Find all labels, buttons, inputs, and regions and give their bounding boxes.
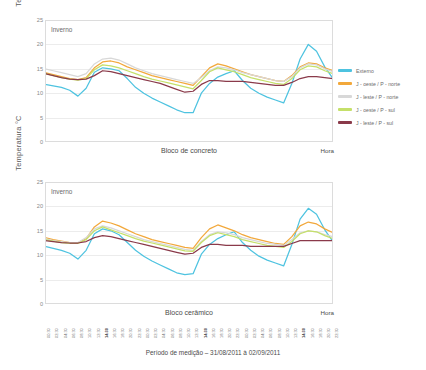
legend-swatch-icon <box>338 121 352 123</box>
legend-label: J - oeste / P - sul <box>356 107 395 113</box>
x-tick-label: 08:30 <box>278 328 282 338</box>
panel-title-top: Bloco de concreto <box>45 147 333 154</box>
legend-item[interactable]: J - leste / P - sul <box>338 116 426 129</box>
x-tick-label: 18:30 <box>319 328 323 338</box>
x-tick-label: 12:30 <box>97 328 101 338</box>
y-tick-20: 20 <box>23 41 43 47</box>
x-tick-label: 22:30 <box>236 328 240 338</box>
x-tick-label: 06:30 <box>269 328 273 338</box>
x-tick-label: 18:30 <box>121 328 125 338</box>
legend-item[interactable]: J - oeste / P - norte <box>338 77 426 90</box>
x-tick-label: 06:30 <box>171 328 175 338</box>
x-tick-label: 12:30 <box>195 328 199 338</box>
series-line-j-oeste-p-norte <box>45 61 333 85</box>
chart-curves-top <box>45 20 333 142</box>
x-tick-label: 10:30 <box>286 328 290 338</box>
y-tick-10: 10 <box>23 252 43 258</box>
x-tick-label: 04:30 <box>162 328 166 338</box>
y-tick-15: 15 <box>23 228 43 234</box>
legend-swatch-icon <box>338 82 352 84</box>
legend-item[interactable]: Externo <box>338 64 426 77</box>
x-tick-label: 12:30 <box>294 328 298 338</box>
x-tick-label: 02:30 <box>55 328 59 338</box>
legend-label: J - leste / P - sul <box>356 120 393 126</box>
legend-label: J - oeste / P - norte <box>356 81 400 87</box>
x-tick-label: 04:30 <box>261 328 265 338</box>
legend-label: J - leste / P - norte <box>356 94 398 100</box>
x-tick-label: 14:30 <box>302 328 306 338</box>
x-tick-label: 20:30 <box>327 328 331 338</box>
legend-label: Externo <box>356 68 374 74</box>
x-axis-tick-labels: 00:3002:3004:3006:3008:3010:3012:3014:30… <box>45 312 333 342</box>
panel-bloco-de-concreto: Temperatura °C 2520151050 Inverno Bloco … <box>0 6 426 166</box>
y-tick-25: 25 <box>23 179 43 185</box>
x-tick-label: 00:30 <box>245 328 249 338</box>
y-tick-15: 15 <box>23 66 43 72</box>
x-tick-label: 16:30 <box>113 328 117 338</box>
x-tick-label: 22:30 <box>138 328 142 338</box>
legend-item[interactable]: J - leste / P - norte <box>338 90 426 103</box>
x-tick-label: 14:30 <box>204 328 208 338</box>
x-tick-label: 08:30 <box>179 328 183 338</box>
annotation-inverno-top: Inverno <box>51 26 72 33</box>
x-tick-label: 16:30 <box>311 328 315 338</box>
x-tick-label: 14:30 <box>105 328 109 338</box>
y-tick-5: 5 <box>23 277 43 283</box>
y-tick-0: 0 <box>23 301 43 307</box>
panel-bloco-ceramico: Temperatura °C 2520151050 Inverno Bloco … <box>0 168 426 328</box>
x-tick-label: 04:30 <box>64 328 68 338</box>
legend-swatch-icon <box>338 108 352 110</box>
x-tick-label: 20:30 <box>228 328 232 338</box>
x-tick-label: 02:30 <box>253 328 257 338</box>
legend-item[interactable]: J - oeste / P - sul <box>338 103 426 116</box>
annotation-inverno-bottom: Inverno <box>51 188 72 195</box>
x-tick-label: 10:30 <box>187 328 191 338</box>
figure: Temperatura °C 2520151050 Inverno Bloco … <box>0 0 426 370</box>
x-tick-label: 18:30 <box>220 328 224 338</box>
y-axis-ticks-bottom: 2520151050 <box>21 168 43 304</box>
x-tick-label: 20:30 <box>129 328 133 338</box>
y-tick-25: 25 <box>23 17 43 23</box>
x-tick-label: 00:30 <box>47 328 51 338</box>
x-tick-label: 10:30 <box>88 328 92 338</box>
x-tick-label: 16:30 <box>212 328 216 338</box>
x-tick-label: 22:30 <box>335 328 339 338</box>
x-tick-label: 00:30 <box>146 328 150 338</box>
x-tick-label: 02:30 <box>154 328 158 338</box>
y-tick-20: 20 <box>23 203 43 209</box>
legend-top: ExternoJ - oeste / P - norteJ - leste / … <box>338 64 426 129</box>
figure-caption: Período de medição – 31/08/2011 à 02/09/… <box>0 349 426 356</box>
x-axis-label-top: Hora <box>300 147 334 154</box>
x-tick-label: 08:30 <box>80 328 84 338</box>
chart-curves-bottom <box>45 182 333 304</box>
legend-swatch-icon <box>338 95 352 97</box>
legend-swatch-icon <box>338 69 352 71</box>
x-tick-label: 06:30 <box>72 328 76 338</box>
